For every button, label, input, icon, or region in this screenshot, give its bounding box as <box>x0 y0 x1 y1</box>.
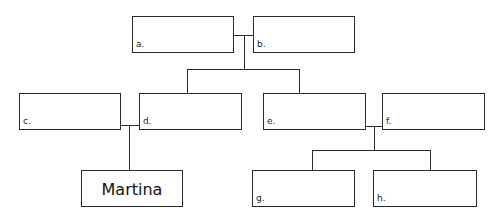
connector-ef-children <box>312 150 431 151</box>
connector-to-e <box>299 69 300 93</box>
connector-ef-down <box>374 126 375 150</box>
connector-cd-down <box>129 125 130 170</box>
box-c[interactable]: c. <box>19 93 121 130</box>
box-b-label: b. <box>257 39 266 49</box>
box-g-label: g. <box>256 193 265 203</box>
box-b[interactable]: b. <box>253 16 355 53</box>
martina-name: Martina <box>82 179 182 198</box>
connector-to-g <box>312 150 313 170</box>
box-g[interactable]: g. <box>252 170 355 207</box>
box-d[interactable]: d. <box>139 93 242 130</box>
box-martina[interactable]: Martina <box>81 170 183 207</box>
box-e-label: e. <box>267 116 275 126</box>
box-f-label: f. <box>386 116 391 126</box>
box-c-label: c. <box>23 116 31 126</box>
connector-ab-down <box>244 35 245 70</box>
connector-ab-children <box>187 69 299 70</box>
box-a-label: a. <box>136 39 144 49</box>
connector-to-d <box>187 69 188 93</box>
box-h-label: h. <box>377 193 386 203</box>
box-a[interactable]: a. <box>132 16 234 53</box>
box-d-label: d. <box>143 116 152 126</box>
connector-to-h <box>430 150 431 170</box>
box-e[interactable]: e. <box>263 93 366 130</box>
connector-c-d <box>121 125 139 126</box>
box-h[interactable]: h. <box>373 170 477 207</box>
box-f[interactable]: f. <box>382 93 485 130</box>
